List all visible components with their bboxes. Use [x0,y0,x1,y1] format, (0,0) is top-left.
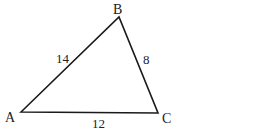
vertex-label-b: B [113,2,122,17]
side-label-ac: 12 [92,116,105,130]
vertex-label-c: C [162,111,171,126]
vertex-label-a: A [5,110,16,125]
side-label-bc: 8 [143,52,150,67]
triangle-diagram: A B C 14 8 12 [0,0,263,130]
triangle-abc [21,17,158,113]
side-label-ab: 14 [56,51,70,66]
